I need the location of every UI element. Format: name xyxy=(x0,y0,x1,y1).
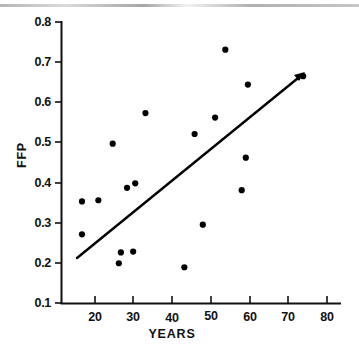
y-tick-label-0.2: 0.2 xyxy=(35,256,52,270)
data-point xyxy=(192,131,198,137)
data-point xyxy=(200,222,206,228)
data-point xyxy=(132,180,138,186)
y-tick-label-0.3: 0.3 xyxy=(35,216,52,230)
data-point xyxy=(300,73,306,79)
data-point xyxy=(130,249,136,255)
scatter-plot-figure: 0.8 0.7 0.6 0.5 0.4 0.3 0.2 0.1 20 30 40… xyxy=(0,0,359,356)
data-point xyxy=(95,197,101,203)
data-point xyxy=(243,155,249,161)
x-axis-title: YEARS xyxy=(148,327,195,341)
data-point xyxy=(239,187,245,193)
y-axis-title: FFP xyxy=(15,142,29,168)
y-tick-label-0.8: 0.8 xyxy=(35,15,52,29)
data-point xyxy=(124,185,130,191)
data-point xyxy=(181,264,187,270)
data-point xyxy=(110,141,116,147)
data-point xyxy=(116,260,122,266)
plot-canvas: 0.8 0.7 0.6 0.5 0.4 0.3 0.2 0.1 20 30 40… xyxy=(0,0,359,356)
y-tick-label-0.5: 0.5 xyxy=(35,135,52,149)
data-points-layer xyxy=(79,47,306,271)
data-point xyxy=(118,249,124,255)
data-point xyxy=(222,47,228,53)
x-tick-label-50: 50 xyxy=(204,309,218,323)
x-tick-label-60: 60 xyxy=(243,310,257,324)
x-tick-label-80: 80 xyxy=(320,310,334,324)
data-point xyxy=(79,231,85,237)
x-tick-label-70: 70 xyxy=(281,310,295,324)
data-point xyxy=(245,82,251,88)
x-tick-label-20: 20 xyxy=(88,310,102,324)
regression-line xyxy=(77,74,303,258)
x-axis-ticks xyxy=(95,296,327,304)
x-tick-label-40: 40 xyxy=(165,311,179,325)
data-point xyxy=(79,198,85,204)
y-tick-label-0.7: 0.7 xyxy=(35,55,52,69)
data-point xyxy=(142,110,148,116)
y-tick-label-0.1: 0.1 xyxy=(35,296,52,310)
data-point xyxy=(212,114,218,120)
y-tick-label-0.4: 0.4 xyxy=(35,176,52,190)
x-tick-label-30: 30 xyxy=(126,310,140,324)
y-tick-label-0.6: 0.6 xyxy=(35,95,52,109)
